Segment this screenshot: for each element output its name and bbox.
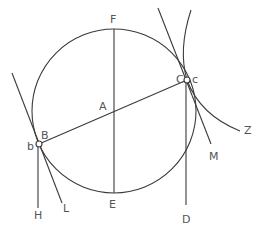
tangent-line-c-m	[158, 8, 211, 144]
diameter-bc	[39, 80, 187, 144]
label-b-lower: b	[27, 140, 34, 153]
curve-c-z	[183, 10, 240, 131]
label-h: H	[34, 209, 42, 222]
label-m: M	[209, 150, 219, 163]
label-a: A	[99, 100, 107, 113]
geometry-diagram: F A E B b C c H L D M Z	[0, 0, 264, 234]
label-d: D	[182, 213, 190, 226]
label-c: C	[176, 73, 184, 86]
label-b: B	[41, 129, 49, 142]
label-l: L	[63, 202, 70, 215]
label-e: E	[109, 198, 116, 211]
tangent-line-b-l	[12, 73, 62, 203]
label-f: F	[110, 13, 116, 26]
label-c-lower: c	[192, 73, 198, 86]
point-c-marker	[184, 77, 190, 83]
label-z: Z	[244, 124, 252, 137]
